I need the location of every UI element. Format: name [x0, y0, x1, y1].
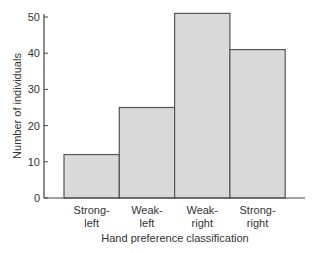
y-axis-label: Number of individuals: [11, 46, 23, 166]
x-category-label: Strong-left: [64, 204, 120, 230]
y-tick-label: 20: [20, 120, 40, 132]
bar: [64, 155, 119, 198]
bar: [119, 108, 174, 199]
x-category-label: Strong-right: [230, 204, 286, 230]
bar: [230, 50, 285, 198]
x-axis-label: Hand preference classification: [44, 232, 306, 244]
y-tick-label: 50: [20, 11, 40, 23]
y-tick-label: 10: [20, 156, 40, 168]
y-tick-label: 40: [20, 47, 40, 59]
x-category-label: Weak-left: [119, 204, 175, 230]
x-category-label: Weak-right: [174, 204, 230, 230]
y-tick-label: 30: [20, 83, 40, 95]
y-tick-label: 0: [20, 192, 40, 204]
bar: [175, 13, 230, 198]
